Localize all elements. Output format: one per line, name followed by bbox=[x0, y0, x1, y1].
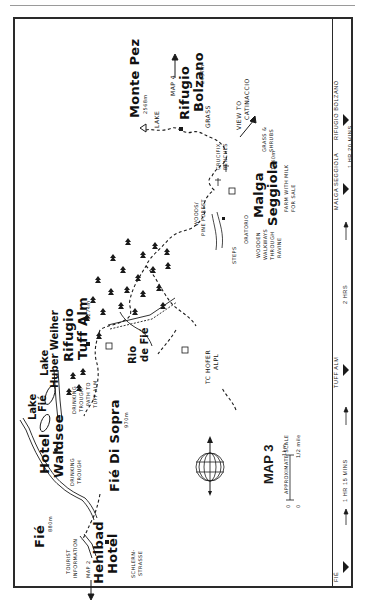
label-rifugio-bolzano-1: Rifugio bbox=[178, 66, 191, 120]
label-catinaccio: CATINACCIO bbox=[244, 78, 250, 120]
label-woods: WOODS/ bbox=[194, 202, 199, 226]
compass-globe-icon bbox=[196, 442, 224, 492]
label-drinking-trough-2b: TROUGH bbox=[77, 460, 82, 484]
label-fie-altitude: 880m bbox=[48, 516, 53, 532]
label-grass-shrubs-2: SHRUBS bbox=[269, 129, 274, 152]
label-ravine: RAVINE bbox=[277, 237, 282, 258]
label-farm-for-sale: FOR SALE bbox=[291, 184, 296, 212]
label-lake-fie-2: Fié bbox=[38, 395, 48, 412]
label-schlern: SCHLERN- bbox=[131, 549, 136, 578]
label-view-to: VIEW TO bbox=[236, 101, 242, 130]
label-tc-hofer: TC HOFER bbox=[205, 350, 211, 384]
trail-markers bbox=[106, 188, 235, 353]
label-hehlbad-1: Hehlbad bbox=[92, 521, 105, 584]
label-drinking-trough-2a: DRINKING bbox=[70, 458, 75, 486]
label-grass: GRASS bbox=[205, 105, 211, 128]
lake-fie-icon bbox=[38, 413, 52, 433]
north-arrow-icon bbox=[207, 436, 213, 443]
map-title: MAP 3 bbox=[262, 445, 275, 485]
label-monte-pez-altitude: 2568m bbox=[143, 94, 148, 114]
label-fie: Fié bbox=[33, 525, 46, 548]
label-tourist: TOURIST bbox=[66, 549, 71, 574]
south-arrow-icon bbox=[208, 491, 212, 496]
timeline-stop-fie: FIÉ bbox=[334, 572, 340, 582]
timeline-markers bbox=[343, 114, 349, 573]
label-malga-seggiola-1: Malga bbox=[252, 172, 265, 218]
label-hehlbad-2: Hotel bbox=[106, 533, 119, 574]
main-trail bbox=[82, 128, 236, 540]
label-through: THROUGH bbox=[270, 232, 275, 260]
label-fie-di-sopra-altitude: 970m bbox=[124, 412, 129, 428]
label-crucifix: CRUCIFIX bbox=[216, 143, 221, 170]
timeline-leg-2: 2 HRS bbox=[343, 285, 349, 304]
scale-mile: 1/2 mile bbox=[296, 434, 301, 458]
summit-triangle-icon bbox=[140, 124, 146, 132]
timeline-leg-1: 1 HR 15 MINS bbox=[343, 459, 349, 502]
label-rifugio-tuff-alm-1: Rifugio bbox=[62, 308, 75, 362]
label-benches: BENCHES bbox=[223, 143, 228, 170]
label-pine-forest: PINE FOREST bbox=[201, 199, 206, 236]
label-wooden: WOODEN bbox=[256, 232, 261, 258]
label-huber-weiher: Huber Weiher bbox=[50, 310, 60, 388]
label-walkways: WALKWAYS bbox=[263, 229, 268, 260]
label-alpl: ALPL bbox=[213, 354, 219, 370]
building-malga-seggiola-icon bbox=[222, 217, 225, 220]
label-information: INFORMATION bbox=[73, 539, 78, 578]
label-hotel-waldsee-2: Waldsee bbox=[52, 414, 65, 478]
scale-km: 1km bbox=[282, 444, 287, 456]
scale-zero-2: 0 bbox=[296, 504, 301, 508]
label-malga-seggiola-2: Seggiola bbox=[266, 160, 279, 226]
label-rifugio-bolzano-altitude: 2457m bbox=[200, 64, 205, 84]
scale-zero: 0 bbox=[286, 504, 291, 508]
label-grass-shrubs-1: GRASS & bbox=[262, 127, 267, 152]
timeline-stop-malga-seggiola: MALGA SEGGIOLA bbox=[334, 153, 340, 210]
label-hotel-waldsee-1: Hotel bbox=[38, 433, 51, 474]
label-strasse: STRASSE bbox=[138, 551, 143, 576]
label-drinking-trough-1a: DRINKING bbox=[72, 386, 77, 414]
label-tuff-alm-altitude: 1274m bbox=[86, 300, 91, 320]
building-rifugio-bolzano-icon bbox=[179, 127, 183, 131]
ravine-walkway bbox=[212, 212, 223, 250]
label-lake: LAKE bbox=[154, 111, 160, 128]
label-path-tuff-alm: TUFF ALM bbox=[93, 380, 98, 408]
label-malga-seggiola-altitude: 1940m bbox=[271, 150, 276, 170]
timeline-stop-rifugio-bolzano: RIFUGIO BOLZANO bbox=[334, 80, 340, 140]
label-rio: Rio bbox=[128, 346, 138, 364]
label-path-to: PATH TO bbox=[86, 382, 91, 406]
label-drinking-trough-1b: TROUGH bbox=[79, 388, 84, 412]
label-de-fie: de Fié bbox=[140, 328, 150, 362]
timeline-leg-3: 1 HR 20 MINS bbox=[348, 125, 354, 168]
label-farm-milk: FARM WITH MILK bbox=[284, 165, 289, 213]
label-fie-di-sopra: Fié Di Sopra bbox=[108, 399, 121, 492]
label-map4: MAP 4 bbox=[170, 75, 176, 96]
label-steps: STEPS bbox=[232, 246, 237, 264]
timeline-stop-tuff-alm: TUFF ALM bbox=[334, 357, 340, 388]
label-oratorio: ORATORIO bbox=[244, 215, 249, 244]
label-monte-pez: Monte Pez bbox=[128, 39, 141, 118]
